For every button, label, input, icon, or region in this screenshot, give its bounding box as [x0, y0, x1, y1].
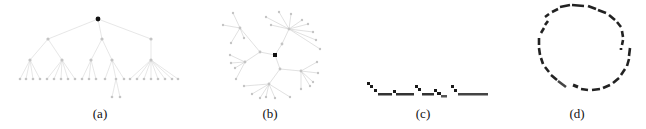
panel-d-caption: (d) [557, 106, 597, 122]
tree-diagram-hierarchical [0, 0, 200, 105]
panel-b-caption: (b) [250, 106, 290, 122]
panel-d: (d) [490, 0, 646, 129]
panel-c: (c) [340, 0, 500, 129]
stepped-layout-diagram [340, 0, 500, 105]
panel-b: (b) [200, 0, 340, 129]
root-node [273, 53, 277, 57]
tree-diagram-radial [200, 0, 340, 105]
panel-a-caption: (a) [80, 106, 120, 122]
root-node [96, 17, 101, 22]
circular-layout-diagram [490, 0, 646, 105]
panel-a: (a) [0, 0, 200, 129]
panel-c-caption: (c) [403, 106, 443, 122]
